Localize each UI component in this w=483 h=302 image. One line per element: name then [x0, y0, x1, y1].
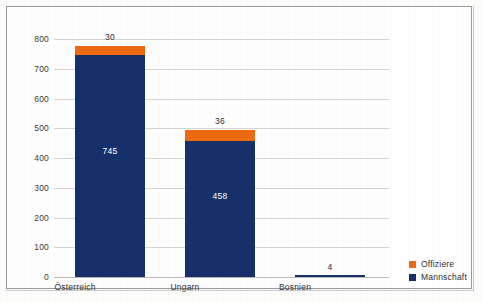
bar-segment-mannschaft-ungarn[interactable] [185, 141, 255, 277]
chart-legend: Offiziere Mannschaft [409, 258, 467, 284]
bar-value-offiziere-ungarn: 36 [185, 117, 255, 126]
legend-item-offiziere[interactable]: Offiziere [409, 258, 467, 271]
y-tick-300: 300 [15, 184, 49, 193]
x-category-ungarn: Ungarn [150, 283, 220, 292]
bar-segment-offiziere-osterreich[interactable] [75, 46, 145, 55]
y-tick-0: 0 [15, 273, 49, 282]
x-category-bosnien: Bosnien [260, 283, 330, 292]
bar-group-osterreich[interactable]: 745 30 [75, 46, 145, 277]
y-tick-200: 200 [15, 214, 49, 223]
chart-frame: 800 700 600 500 400 300 200 100 0 [6, 6, 472, 289]
bar-value-offiziere-osterreich: 30 [75, 33, 145, 42]
bar-value-mannschaft-osterreich: 745 [75, 147, 145, 156]
gridline-0-axis [54, 277, 389, 278]
plot-area: 745 30 458 36 4 [54, 39, 389, 277]
y-tick-700: 700 [15, 65, 49, 74]
bar-segment-mannschaft-bosnien[interactable] [295, 275, 365, 277]
bar-segment-offiziere-ungarn[interactable] [185, 130, 255, 141]
legend-swatch-offiziere-icon [409, 261, 416, 268]
bar-group-bosnien[interactable]: 4 [295, 275, 365, 277]
legend-label-offiziere: Offiziere [421, 260, 454, 269]
bar-value-mannschaft-ungarn: 458 [185, 192, 255, 201]
bar-value-bosnien: 4 [295, 263, 365, 272]
y-tick-400: 400 [15, 154, 49, 163]
legend-swatch-mannschaft-icon [409, 274, 416, 281]
chart-page: 800 700 600 500 400 300 200 100 0 [0, 0, 483, 302]
legend-label-mannschaft: Mannschaft [421, 273, 467, 282]
legend-item-mannschaft[interactable]: Mannschaft [409, 271, 467, 284]
y-tick-100: 100 [15, 243, 49, 252]
x-category-osterreich: Österreich [40, 283, 110, 292]
y-axis-labels: 800 700 600 500 400 300 200 100 0 [7, 39, 49, 277]
bar-segment-mannschaft-osterreich[interactable] [75, 55, 145, 277]
y-tick-500: 500 [15, 124, 49, 133]
y-tick-800: 800 [15, 35, 49, 44]
bar-group-ungarn[interactable]: 458 36 [185, 130, 255, 277]
y-tick-600: 600 [15, 95, 49, 104]
